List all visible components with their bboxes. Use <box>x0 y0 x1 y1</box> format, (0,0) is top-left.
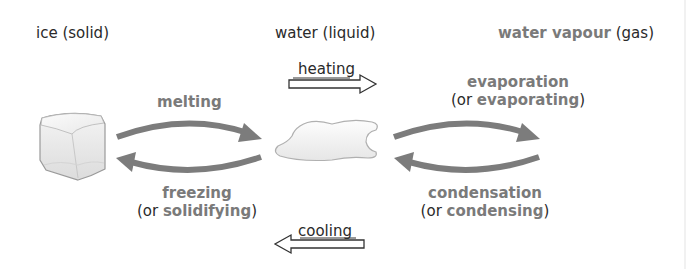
cooling-arrow-icon <box>275 235 364 253</box>
diagram-artwork <box>0 0 686 269</box>
ice-cube-icon <box>40 113 105 180</box>
melting-arrow-icon <box>117 123 262 142</box>
heating-arrow-icon <box>289 75 376 93</box>
condensation-arrow-icon <box>394 152 539 172</box>
water-puddle-icon <box>275 120 377 160</box>
evaporation-arrow-icon <box>394 123 540 142</box>
freezing-arrow-icon <box>116 152 261 172</box>
